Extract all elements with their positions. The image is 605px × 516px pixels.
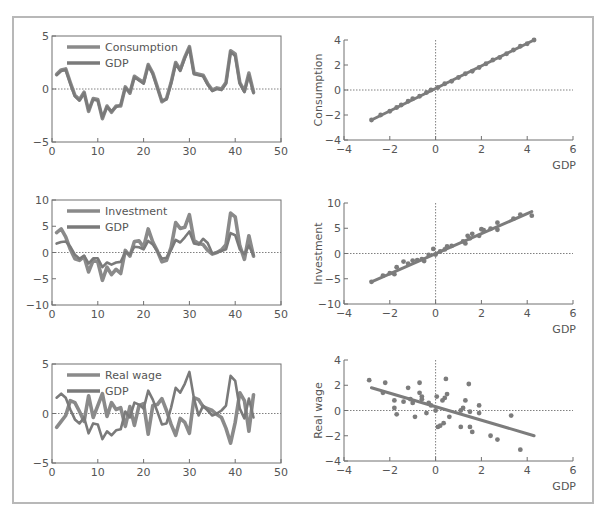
scatter-point: [488, 433, 493, 438]
scatter-point: [477, 411, 482, 416]
x-tick-label: 6: [570, 143, 577, 156]
scatter-point: [449, 79, 454, 84]
y-tick-label: 5: [334, 222, 341, 235]
legend-label: GDP: [105, 221, 129, 234]
scatter-point: [441, 421, 446, 426]
scatter-point: [387, 271, 392, 276]
scatter-point: [490, 58, 495, 63]
y-tick-label: 5: [42, 220, 49, 233]
y-tick-label: 0: [42, 408, 49, 421]
scatter-point: [413, 414, 418, 419]
scatter-point: [518, 212, 523, 217]
scatter-point: [431, 247, 436, 252]
legend-label: Investment: [105, 205, 168, 218]
y-tick-label: −5: [325, 273, 341, 286]
y-tick-label: 4: [334, 34, 341, 47]
y-tick-label: 2: [334, 59, 341, 72]
legend-label: Real wage: [105, 369, 162, 382]
scatter-point: [529, 213, 534, 218]
x-tick-label: 10: [91, 308, 105, 321]
scatter-point: [369, 118, 374, 123]
y-tick-label: 10: [327, 197, 341, 210]
regression-fit-line: [371, 388, 534, 436]
y-tick-label: −5: [33, 273, 49, 286]
x-tick-label: 30: [182, 308, 196, 321]
y-axis-label: Consumption: [312, 54, 325, 127]
y-tick-label: −5: [33, 457, 49, 470]
x-axis-label: GDP: [552, 323, 576, 336]
scatter-point: [468, 425, 473, 430]
scatter-point: [509, 413, 514, 418]
scatter-point: [495, 227, 500, 232]
scatter-point: [383, 380, 388, 385]
scatter-point: [442, 81, 447, 86]
x-tick-label: 40: [228, 145, 242, 158]
scatter-point: [438, 249, 443, 254]
scatter-point: [504, 51, 509, 56]
x-tick-label: 2: [478, 143, 485, 156]
x-tick-label: 4: [524, 307, 531, 320]
scatter-point: [401, 259, 406, 264]
scatter-point: [445, 392, 450, 397]
x-tick-label: 50: [274, 308, 288, 321]
x-tick-label: 20: [137, 466, 151, 479]
legend-label: GDP: [105, 385, 129, 398]
scatter-point: [392, 272, 397, 277]
scatter-point: [532, 38, 537, 43]
y-tick-label: 0: [334, 405, 341, 418]
scatter-point: [518, 44, 523, 49]
x-tick-label: 2: [478, 307, 485, 320]
scatter-point: [381, 390, 386, 395]
scatter-consumption-vs-gdp-chart: −4−20246−4−2024GDPConsumption: [312, 34, 577, 172]
scatter-point: [495, 220, 500, 225]
x-tick-label: 4: [524, 143, 531, 156]
scatter-point: [477, 403, 482, 408]
scatter-point: [406, 385, 411, 390]
x-tick-label: 30: [182, 466, 196, 479]
scatter-point: [445, 244, 450, 249]
x-tick-label: 2: [478, 464, 485, 477]
y-tick-label: 4: [334, 354, 341, 367]
scatter-point: [518, 447, 523, 452]
y-axis-label: Real wage: [312, 382, 325, 439]
scatter-real-wage-vs-gdp-chart: −4−20246−4−2024GDPReal wage: [312, 354, 577, 493]
scatter-point: [511, 216, 516, 221]
x-tick-label: 0: [49, 145, 56, 158]
scatter-point: [481, 228, 486, 233]
y-tick-label: 0: [42, 247, 49, 260]
scatter-point: [392, 398, 397, 403]
y-tick-label: −10: [318, 298, 341, 311]
scatter-point: [429, 88, 434, 93]
scatter-point: [406, 261, 411, 266]
scatter-point: [367, 378, 372, 383]
scatter-point: [394, 105, 399, 110]
x-tick-label: −2: [382, 143, 398, 156]
scatter-point: [381, 273, 386, 278]
y-tick-label: 5: [42, 358, 49, 371]
x-tick-label: 0: [432, 464, 439, 477]
legend-label: Consumption: [105, 41, 178, 54]
x-tick-label: 50: [274, 145, 288, 158]
x-tick-label: 30: [182, 145, 196, 158]
x-tick-label: 6: [570, 307, 577, 320]
x-tick-label: 10: [91, 145, 105, 158]
time-series-investment-chart: 01020304050−10−50510InvestmentGDP: [26, 194, 288, 321]
scatter-point: [449, 244, 454, 249]
x-tick-label: 10: [91, 466, 105, 479]
x-axis-label: GDP: [552, 480, 576, 493]
scatter-point: [495, 437, 500, 442]
y-axis-label: Investment: [312, 222, 325, 285]
y-tick-label: −5: [33, 136, 49, 149]
x-axis-label: GDP: [552, 159, 576, 172]
scatter-point: [468, 236, 473, 241]
x-tick-label: −2: [382, 307, 398, 320]
scatter-point: [497, 55, 502, 60]
scatter-point: [456, 75, 461, 80]
scatter-point: [415, 258, 420, 263]
x-tick-label: 40: [228, 308, 242, 321]
scatter-point: [424, 411, 429, 416]
legend-label: GDP: [105, 57, 129, 70]
scatter-point: [463, 71, 468, 76]
scatter-point: [417, 94, 422, 99]
y-tick-label: 5: [42, 30, 49, 43]
